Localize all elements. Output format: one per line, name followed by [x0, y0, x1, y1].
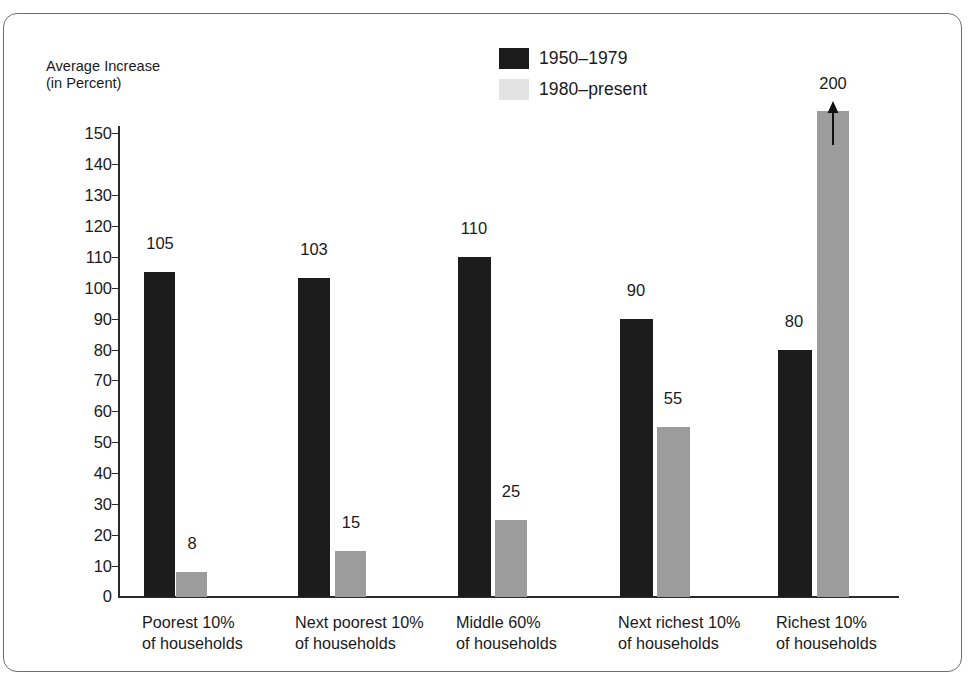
y-tick-20 — [112, 535, 119, 536]
y-tick-label-60: 60 — [70, 403, 112, 419]
category-label-middle-line1: Middle 60% — [456, 612, 557, 633]
y-tick-label-30: 30 — [70, 496, 112, 512]
y-tick-label-100: 100 — [70, 280, 112, 296]
plot-area: 150 140 130 120 110 100 90 80 70 60 50 4… — [0, 0, 969, 684]
bar-light-next-richest — [657, 427, 690, 597]
y-tick-10 — [112, 566, 119, 567]
bar-dark-next-richest — [620, 319, 653, 597]
y-tick-90 — [112, 319, 119, 320]
bar-value-light-next-poorest: 15 — [322, 513, 380, 532]
bar-value-dark-middle: 110 — [445, 219, 503, 238]
category-label-richest-line2: of households — [776, 633, 877, 654]
y-tick-30 — [112, 504, 119, 505]
bar-dark-richest — [778, 350, 812, 597]
y-tick-label-10: 10 — [70, 558, 112, 574]
bar-value-light-poorest: 8 — [163, 534, 221, 553]
category-label-next-poorest-line2: of households — [295, 633, 424, 654]
y-tick-80 — [112, 350, 119, 351]
bar-value-dark-next-poorest: 103 — [285, 240, 343, 259]
y-tick-100 — [112, 288, 119, 289]
y-tick-label-80: 80 — [70, 342, 112, 358]
y-tick-70 — [112, 380, 119, 381]
category-label-poorest-line1: Poorest 10% — [142, 612, 243, 633]
y-tick-label-50: 50 — [70, 434, 112, 450]
y-tick-label-140: 140 — [70, 156, 112, 172]
y-tick-150 — [112, 133, 119, 134]
y-tick-label-110: 110 — [70, 249, 112, 265]
bar-value-dark-richest: 80 — [765, 312, 823, 331]
bar-dark-middle — [458, 257, 491, 597]
y-tick-label-120: 120 — [70, 218, 112, 234]
y-tick-label-0: 0 — [70, 588, 112, 604]
y-tick-40 — [112, 473, 119, 474]
y-tick-50 — [112, 442, 119, 443]
category-label-middle: Middle 60% of households — [456, 612, 557, 654]
category-label-middle-line2: of households — [456, 633, 557, 654]
y-tick-label-40: 40 — [70, 465, 112, 481]
y-tick-110 — [112, 257, 119, 258]
y-axis-line — [118, 126, 120, 598]
category-label-next-richest-line1: Next richest 10% — [618, 612, 740, 633]
y-tick-label-150: 150 — [70, 125, 112, 141]
category-label-richest-line1: Richest 10% — [776, 612, 877, 633]
y-tick-140 — [112, 164, 119, 165]
category-label-next-richest-line2: of households — [618, 633, 740, 654]
y-tick-label-130: 130 — [70, 187, 112, 203]
overflow-arrow-up-icon — [826, 101, 840, 145]
bar-value-light-next-richest: 55 — [644, 389, 702, 408]
category-label-richest: Richest 10% of households — [776, 612, 877, 654]
bar-value-light-middle: 25 — [482, 482, 540, 501]
y-tick-label-20: 20 — [70, 527, 112, 543]
bar-value-dark-poorest: 105 — [131, 234, 189, 253]
bar-value-light-richest: 200 — [804, 74, 862, 93]
bar-light-richest — [817, 111, 849, 597]
bar-light-next-poorest — [335, 551, 366, 597]
y-tick-label-70: 70 — [70, 372, 112, 388]
bar-light-poorest — [176, 572, 207, 597]
y-tick-60 — [112, 411, 119, 412]
y-tick-120 — [112, 226, 119, 227]
bar-dark-next-poorest — [298, 278, 330, 597]
bar-value-dark-next-richest: 90 — [607, 281, 665, 300]
category-label-next-poorest: Next poorest 10% of households — [295, 612, 424, 654]
y-tick-130 — [112, 195, 119, 196]
bar-light-middle — [495, 520, 527, 597]
category-label-poorest: Poorest 10% of households — [142, 612, 243, 654]
chart-page: Average Increase (in Percent) 1950–1979 … — [0, 0, 969, 684]
category-label-next-poorest-line1: Next poorest 10% — [295, 612, 424, 633]
category-label-poorest-line2: of households — [142, 633, 243, 654]
category-label-next-richest: Next richest 10% of households — [618, 612, 740, 654]
y-tick-label-90: 90 — [70, 311, 112, 327]
